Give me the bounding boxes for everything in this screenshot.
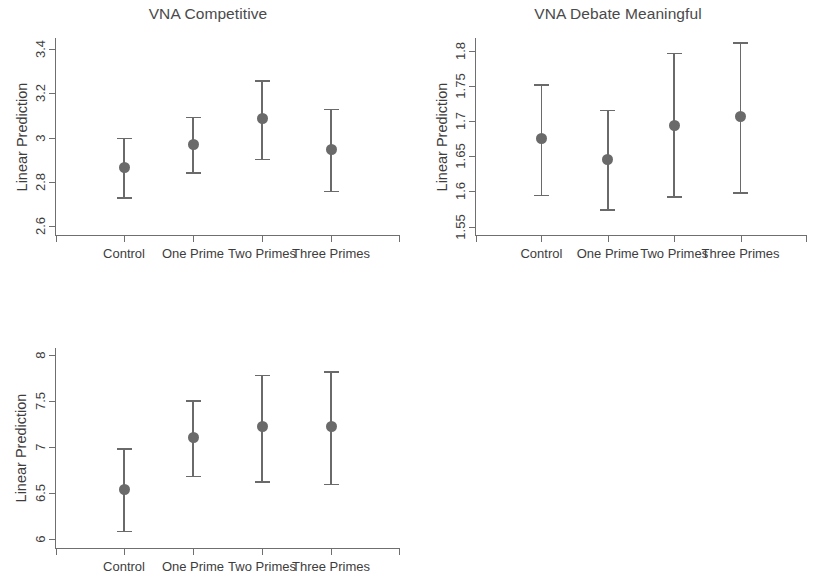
error-bar-lower-cap (117, 531, 132, 533)
data-point-marker (257, 421, 268, 432)
data-point-marker (257, 113, 268, 124)
y-axis-tick-label: 7.5 (32, 379, 50, 423)
x-axis-tick (541, 236, 542, 242)
x-axis-tick (262, 236, 263, 242)
error-bar-upper-cap (186, 400, 201, 402)
error-bar-upper-cap (733, 42, 748, 44)
x-axis-tick-label: Three Primes (276, 246, 386, 261)
x-axis-tick-label: Three Primes (276, 559, 386, 574)
error-bar-lower-cap (600, 209, 615, 211)
error-bar-upper-cap (667, 53, 682, 55)
panel-vna-debate-meaningful: VNA Debate Meaningful1.551.61.651.71.751… (420, 0, 816, 290)
x-axis-line (55, 548, 400, 549)
error-bar-upper-cap (324, 109, 339, 111)
error-bar-upper-cap (117, 138, 132, 140)
error-bar-lower-cap (324, 484, 339, 486)
y-axis-line (55, 348, 56, 548)
error-bar-upper-cap (324, 371, 339, 373)
error-bar-upper-cap (117, 448, 132, 450)
x-axis-line (55, 235, 400, 236)
y-axis-tick-label: 3 (32, 116, 50, 160)
plot-area: 2.62.833.23.4Linear PredictionControlOne… (55, 38, 400, 235)
x-axis-tick (608, 236, 609, 242)
multi-panel-figure: VNA Competitive2.62.833.23.4Linear Predi… (0, 0, 816, 585)
y-axis-tick-label: 6.5 (32, 471, 50, 515)
x-axis-line (475, 235, 807, 236)
data-point-marker (602, 154, 613, 165)
data-point-marker (326, 421, 337, 432)
error-bar-upper-cap (255, 80, 270, 82)
data-point-marker (188, 432, 199, 443)
data-point-marker (326, 144, 337, 155)
y-axis-tick-label: 8 (32, 333, 50, 377)
error-bar-lower-cap (733, 192, 748, 194)
x-axis-tick (124, 236, 125, 242)
error-bar-upper-cap (600, 110, 615, 112)
x-axis-tick (193, 549, 194, 555)
y-axis-tick-label: 1.8 (452, 29, 470, 73)
y-axis-title: Linear Prediction (12, 38, 30, 235)
data-point-marker (669, 120, 680, 131)
y-axis-tick-label: 7 (32, 425, 50, 469)
y-axis-tick-label: 3.2 (32, 71, 50, 115)
y-axis-tick-label: 6 (32, 517, 50, 561)
error-bar-upper-cap (534, 84, 549, 86)
y-axis-tick-label: 3.4 (32, 27, 50, 71)
x-axis-tick (674, 236, 675, 242)
x-axis-end-tick (56, 549, 57, 555)
plot-area: 1.551.61.651.71.751.8Linear PredictionCo… (475, 38, 807, 235)
x-axis-tick (262, 549, 263, 555)
data-point-marker (536, 133, 547, 144)
error-bar-lower-cap (186, 172, 201, 174)
error-bar-lower-cap (255, 159, 270, 161)
x-axis-end-tick (399, 549, 400, 555)
data-point-marker (119, 484, 130, 495)
y-axis-title: Linear Prediction (432, 38, 450, 235)
error-bar-upper-cap (186, 117, 201, 119)
chart-title: VNA Debate Meaningful (420, 5, 816, 23)
x-axis-tick (741, 236, 742, 242)
x-axis-tick (124, 549, 125, 555)
y-axis-line (55, 38, 56, 235)
y-axis-title: Linear Prediction (12, 348, 30, 548)
x-axis-end-tick (476, 236, 477, 242)
x-axis-tick (193, 236, 194, 242)
error-bar-lower-cap (667, 196, 682, 198)
error-bar-lower-cap (117, 197, 132, 199)
x-axis-tick (331, 549, 332, 555)
error-bar-lower-cap (186, 476, 201, 478)
x-axis-tick-label: Three Primes (686, 246, 796, 261)
x-axis-end-tick (399, 236, 400, 242)
data-point-marker (119, 162, 130, 173)
error-bar-lower-cap (324, 191, 339, 193)
panel-vna-competitive: VNA Competitive2.62.833.23.4Linear Predi… (0, 0, 416, 290)
panel-vna-influential: VNA Influential66.577.58Linear Predictio… (0, 295, 416, 585)
plot-area: 66.577.58Linear PredictionControlOne Pri… (55, 348, 400, 548)
y-axis-tick-label: 2.6 (32, 204, 50, 248)
data-point-marker (188, 139, 199, 150)
x-axis-tick (331, 236, 332, 242)
chart-title: VNA Competitive (0, 5, 416, 23)
error-bar-lower-cap (534, 195, 549, 197)
data-point-marker (735, 111, 746, 122)
y-axis-tick-label: 2.8 (32, 160, 50, 204)
error-bar-upper-cap (255, 375, 270, 377)
y-axis-line (475, 38, 476, 235)
error-bar-lower-cap (255, 481, 270, 483)
x-axis-end-tick (806, 236, 807, 242)
x-axis-end-tick (56, 236, 57, 242)
